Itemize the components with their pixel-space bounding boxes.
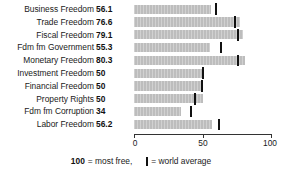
chart-legend: 100 = most free, = world average (0, 152, 282, 170)
bar (134, 94, 203, 103)
bar (134, 56, 245, 65)
category-label: Labor Freedom (0, 118, 94, 131)
bar-track (134, 41, 272, 54)
world-average-tick (234, 16, 236, 28)
category-label: Trade Freedom (0, 16, 94, 29)
world-average-tick (201, 80, 203, 92)
bar (134, 120, 212, 129)
world-average-tick (190, 106, 192, 118)
bar-track (134, 29, 272, 42)
chart-row: Financial Freedom 50 (0, 80, 282, 93)
value-label: 55.3 (96, 41, 122, 54)
bar-track (134, 93, 272, 106)
chart-row: Trade Freedom 76.6 (0, 16, 282, 29)
bar (134, 69, 203, 78)
category-label: Fiscal Freedom (0, 29, 94, 42)
chart-row: Fdm fm Corruption 34 (0, 105, 282, 118)
freedom-index-bar-chart: Business Freedom 56.1 Trade Freedom 76.6… (0, 0, 282, 172)
category-label: Financial Freedom (0, 80, 94, 93)
value-label: 56.2 (96, 118, 122, 131)
category-label: Property Rights (0, 93, 94, 106)
bar-track (134, 16, 272, 29)
value-label: 79.1 (96, 29, 122, 42)
axis-tick-label-0: 0 (133, 138, 138, 149)
chart-row: Business Freedom 56.1 (0, 3, 282, 16)
value-label: 56.1 (96, 3, 122, 16)
value-label: 80.3 (96, 54, 122, 67)
category-label: Fdm fm Corruption (0, 105, 94, 118)
value-label: 76.6 (96, 16, 122, 29)
chart-row: Investment Freedom 50 (0, 67, 282, 80)
chart-row: Fdm fm Government 55.3 (0, 41, 282, 54)
bar (134, 17, 240, 26)
category-label: Investment Freedom (0, 67, 94, 80)
legend-most-free-text: = most free, (88, 156, 132, 166)
value-label: 50 (96, 80, 122, 93)
bar-track (134, 105, 272, 118)
chart-row: Monetary Freedom 80.3 (0, 54, 282, 67)
bar (134, 30, 243, 39)
bar-track (134, 80, 272, 93)
value-label: 50 (96, 93, 122, 106)
category-label: Monetary Freedom (0, 54, 94, 67)
bar-track (134, 118, 272, 131)
bar-track (134, 3, 272, 16)
world-average-tick (237, 29, 239, 41)
bar-track (134, 54, 272, 67)
world-average-tick-icon (146, 157, 148, 166)
chart-row: Property Rights 50 (0, 93, 282, 106)
category-label: Fdm fm Government (0, 41, 94, 54)
world-average-tick (215, 3, 217, 15)
legend-item-most-free: 100 = most free, (71, 156, 132, 166)
world-average-tick (220, 42, 222, 54)
axis-tick-label-50: 50 (198, 138, 207, 149)
x-axis: 0 50 100 (134, 134, 272, 152)
chart-row: Fiscal Freedom 79.1 (0, 29, 282, 42)
bar-track (134, 67, 272, 80)
chart-row: Labor Freedom 56.2 (0, 118, 282, 131)
value-label: 34 (96, 105, 122, 118)
bar (134, 43, 210, 52)
world-average-tick (218, 119, 220, 131)
world-average-tick (237, 55, 239, 67)
category-label: Business Freedom (0, 3, 94, 16)
world-average-tick (194, 93, 196, 105)
legend-world-average-text: = world average (151, 156, 211, 166)
bar (134, 81, 203, 90)
world-average-tick (202, 67, 204, 79)
value-label: 50 (96, 67, 122, 80)
axis-tick-label-100: 100 (263, 138, 277, 149)
bar (134, 107, 181, 116)
legend-most-free-value: 100 (71, 156, 85, 166)
legend-item-world-average: = world average (146, 156, 211, 166)
bar (134, 5, 211, 14)
